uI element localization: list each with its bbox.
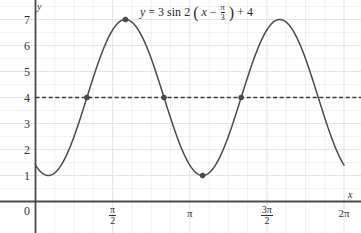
equation-minus: − [210, 5, 217, 19]
x-tick-numerator-2: 3π [261, 205, 273, 215]
y-tick-label-2: 2 [14, 144, 30, 156]
axes [0, 0, 361, 233]
x-tick-fraction-2: 3π2 [261, 205, 273, 226]
equation-vertical-shift: 4 [247, 5, 253, 19]
y-tick-label-1: 1 [14, 170, 30, 182]
equation-equals: = [148, 5, 155, 19]
x-tick-label-1: π [177, 208, 203, 219]
x-axis-label: x [348, 190, 352, 200]
x-tick-fraction-0: π2 [109, 205, 116, 226]
equation-open-paren: ( [193, 4, 198, 21]
y-tick-label-6: 6 [14, 40, 30, 52]
x-tick-denominator-2: 2 [261, 215, 273, 226]
x-tick-label-3: 2π [331, 208, 357, 219]
equation-amplitude: 3 [158, 5, 164, 19]
y-tick-label-3: 3 [14, 118, 30, 130]
x-tick-label-0: π2 [100, 205, 126, 226]
x-tick-denominator-0: 2 [109, 215, 116, 226]
y-tick-label-7: 7 [14, 14, 30, 26]
y-tick-label-5: 5 [14, 66, 30, 78]
equation-phase-numerator: π [221, 3, 225, 12]
equation-variable: x [201, 5, 206, 19]
plot-canvas [0, 0, 361, 233]
y-axis-label: y [37, 2, 41, 12]
equation-b: 2 [184, 5, 190, 19]
chart-figure: y x 0 1234567 π2π3π22π y = 3 sin 2 ( x −… [0, 0, 361, 233]
equation-annotation: y = 3 sin 2 ( x − π 3 ) + 4 [140, 4, 253, 23]
origin-label: 0 [14, 205, 30, 217]
equation-phase-fraction: π 3 [221, 3, 225, 22]
equation-close-paren: ) [229, 4, 234, 21]
equation-function: sin [167, 5, 181, 19]
equation-phase-denominator: 3 [221, 12, 225, 22]
y-tick-label-4: 4 [14, 92, 30, 104]
x-tick-label-2: 3π2 [254, 205, 280, 226]
gridlines [0, 0, 361, 233]
x-tick-numerator-0: π [109, 205, 116, 215]
equation-lhs: y [140, 5, 145, 19]
equation-plus: + [237, 5, 244, 19]
